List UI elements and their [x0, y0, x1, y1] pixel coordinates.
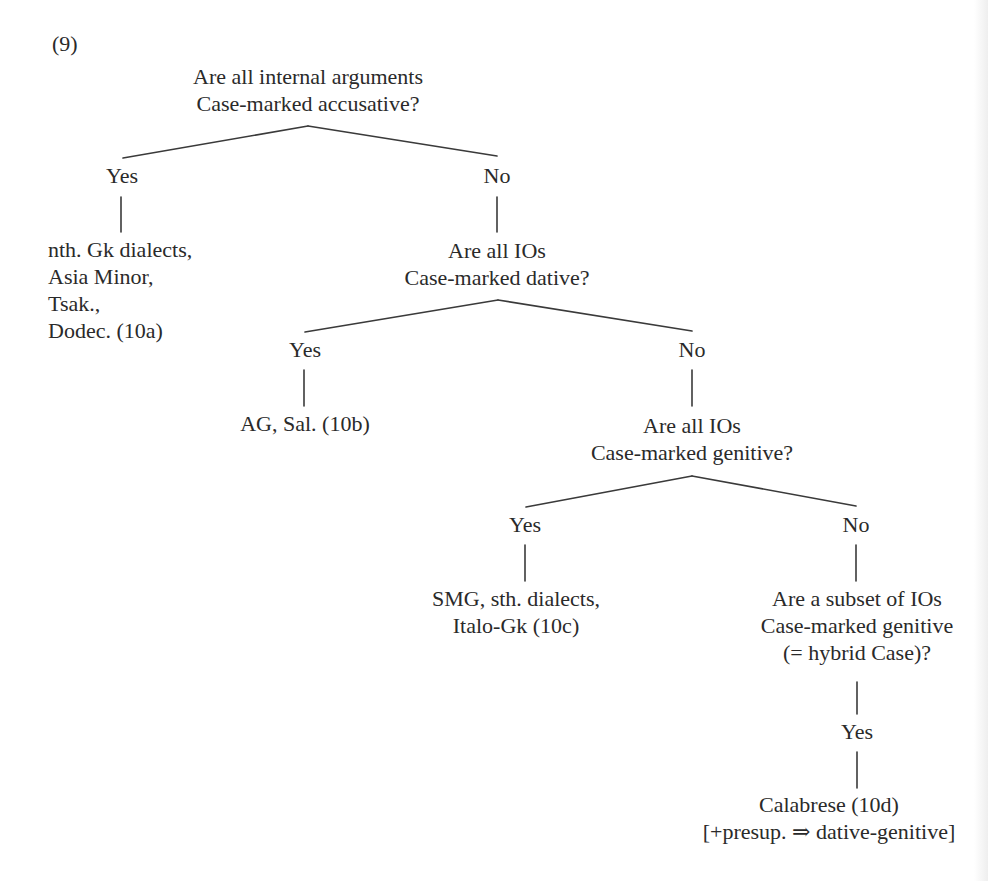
result-line: Calabrese (10d) [703, 791, 956, 818]
q1-yes-branch [123, 126, 308, 158]
q2-yes-result: AG, Sal. (10b) [240, 410, 370, 437]
q3-yes-branch [526, 476, 692, 507]
q1-no-branch [308, 126, 497, 156]
question-1-line-1: Are all internal arguments [193, 63, 423, 90]
question-4-line-3: (= hybrid Case)? [761, 639, 953, 666]
question-1-line-2: Case-marked accusative? [193, 90, 423, 117]
q4-yes-result: Calabrese (10d) [+presup. ⇒ dative-genit… [703, 791, 956, 845]
result-line: [+presup. ⇒ dative-genitive] [703, 818, 956, 845]
q1-yes-label: Yes [106, 162, 138, 189]
question-2: Are all IOs Case-marked dative? [404, 237, 589, 291]
q2-no-label: No [679, 336, 706, 363]
question-1: Are all internal arguments Case-marked a… [193, 63, 423, 117]
example-number: (9) [52, 30, 78, 57]
question-3-line-1: Are all IOs [591, 412, 793, 439]
question-3-line-2: Case-marked genitive? [591, 439, 793, 466]
result-line: SMG, sth. dialects, [432, 585, 600, 612]
q2-no-branch [498, 300, 692, 331]
question-4-line-1: Are a subset of IOs [761, 585, 953, 612]
result-line: Asia Minor, [48, 263, 192, 290]
q1-yes-result: nth. Gk dialects, Asia Minor, Tsak., Dod… [48, 236, 192, 344]
q3-no-label: No [843, 511, 870, 538]
question-3: Are all IOs Case-marked genitive? [591, 412, 793, 466]
result-line: Italo-Gk (10c) [432, 612, 600, 639]
q3-no-branch [692, 476, 856, 506]
q2-yes-label: Yes [289, 336, 321, 363]
q4-yes-label: Yes [841, 718, 873, 745]
question-4: Are a subset of IOs Case-marked genitive… [761, 585, 953, 666]
q3-yes-result: SMG, sth. dialects, Italo-Gk (10c) [432, 585, 600, 639]
result-line: Tsak., [48, 290, 192, 317]
q3-yes-label: Yes [509, 511, 541, 538]
result-line: Dodec. (10a) [48, 317, 192, 344]
result-line: nth. Gk dialects, [48, 236, 192, 263]
tree-branches [0, 0, 988, 881]
question-2-line-2: Case-marked dative? [404, 264, 589, 291]
result-line: AG, Sal. (10b) [240, 410, 370, 437]
question-4-line-2: Case-marked genitive [761, 612, 953, 639]
question-2-line-1: Are all IOs [404, 237, 589, 264]
q2-yes-branch [305, 300, 498, 332]
q1-no-label: No [484, 162, 511, 189]
